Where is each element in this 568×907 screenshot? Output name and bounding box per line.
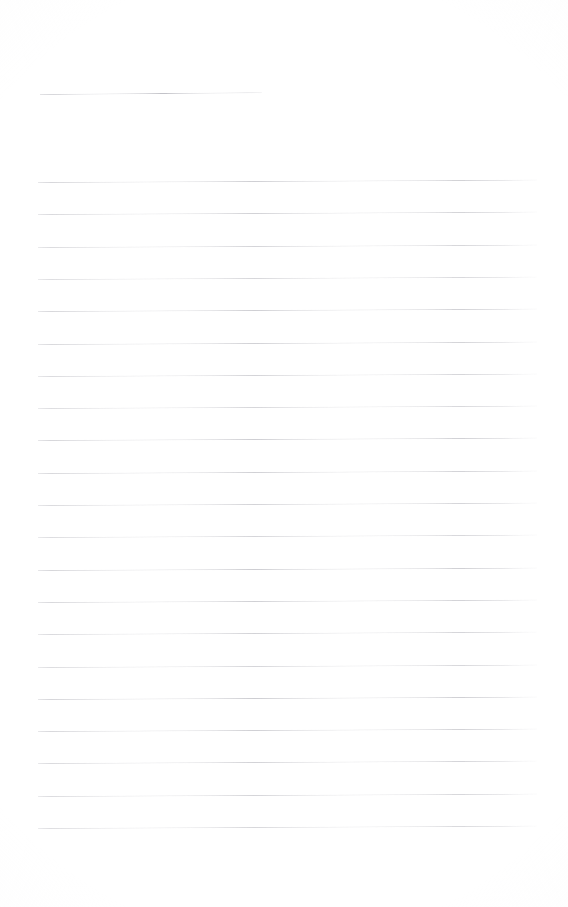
body-rule-line xyxy=(38,180,537,183)
body-rule-line xyxy=(38,696,537,699)
header-rule xyxy=(40,92,262,95)
body-rule-line xyxy=(38,793,537,796)
lined-paper-page xyxy=(0,0,568,907)
body-rule-line xyxy=(38,535,537,538)
paper-grain-overlay xyxy=(0,0,568,907)
body-rule-line xyxy=(38,664,537,667)
body-rule-line xyxy=(38,632,537,635)
body-rule-line xyxy=(38,212,537,215)
body-rule-line xyxy=(38,276,537,279)
body-rule-line xyxy=(38,503,537,506)
body-rule-line xyxy=(38,599,537,602)
body-rule-line xyxy=(38,309,537,312)
body-rule-line xyxy=(38,244,537,247)
body-rule-line xyxy=(38,826,537,829)
body-rule-line xyxy=(38,470,537,473)
body-rule-line xyxy=(38,761,537,764)
body-rule-line xyxy=(38,567,537,570)
body-rule-line xyxy=(38,438,537,441)
body-rule-line xyxy=(38,729,537,732)
body-rule-line xyxy=(38,406,537,409)
body-rule-line xyxy=(38,341,537,344)
body-rule-line xyxy=(38,373,537,376)
